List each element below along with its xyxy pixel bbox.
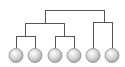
leaf-nodes xyxy=(9,49,119,63)
leaf-node-2 xyxy=(28,49,42,63)
pair-3-bracket xyxy=(94,23,113,49)
leaf-node-4 xyxy=(67,49,81,63)
leaf-node-6 xyxy=(105,49,119,63)
root-bracket xyxy=(46,11,105,24)
pair-2-bracket xyxy=(56,37,75,49)
tree-links xyxy=(17,11,113,49)
leaf-node-5 xyxy=(86,49,100,63)
leaf-node-1 xyxy=(9,49,23,63)
left-cluster-bracket xyxy=(26,24,65,37)
leaf-node-3 xyxy=(48,49,62,63)
dendrogram-diagram xyxy=(0,0,125,67)
pair-1-bracket xyxy=(17,37,36,49)
